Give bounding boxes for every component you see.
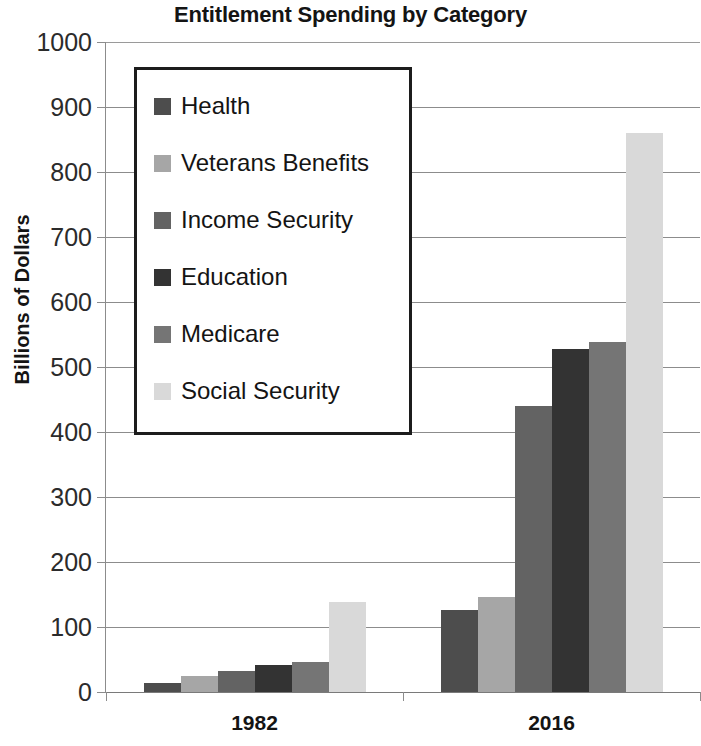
x-axis-label-2016: 2016 — [528, 711, 575, 735]
y-tick-300 — [97, 497, 106, 498]
y-tick-600 — [97, 302, 106, 303]
chart-title: Entitlement Spending by Category — [0, 2, 701, 28]
legend-swatch-icon — [154, 269, 171, 286]
gridline-1000 — [106, 42, 700, 43]
bar-2016-social-security — [626, 133, 663, 692]
legend-item-medicare[interactable]: Medicare — [154, 322, 280, 346]
chart-legend: HealthVeterans BenefitsIncome SecurityEd… — [134, 67, 412, 435]
x-tick-origin — [106, 692, 107, 701]
bar-1982-health — [144, 683, 181, 692]
legend-item-veterans-benefits[interactable]: Veterans Benefits — [154, 151, 369, 175]
y-tick-1000 — [97, 42, 106, 43]
y-tick-400 — [97, 432, 106, 433]
bar-chart: Entitlement Spending by Category Billion… — [0, 0, 701, 746]
legend-swatch-icon — [154, 155, 171, 172]
bar-1982-income-security — [218, 671, 255, 692]
legend-label: Income Security — [181, 208, 353, 232]
bar-2016-health — [441, 610, 478, 692]
bar-1982-education — [255, 665, 292, 692]
legend-swatch-icon — [154, 212, 171, 229]
y-tick-label-600: 600 — [0, 288, 92, 317]
y-tick-label-700: 700 — [0, 223, 92, 252]
x-axis-label-1982: 1982 — [231, 711, 278, 735]
legend-label: Medicare — [181, 322, 280, 346]
legend-item-health[interactable]: Health — [154, 94, 250, 118]
bar-2016-income-security — [515, 406, 552, 692]
y-tick-100 — [97, 627, 106, 628]
x-tick-1982 — [403, 692, 404, 701]
legend-swatch-icon — [154, 383, 171, 400]
y-tick-label-100: 100 — [0, 613, 92, 642]
y-tick-800 — [97, 172, 106, 173]
legend-swatch-icon — [154, 98, 171, 115]
bar-2016-education — [552, 349, 589, 692]
y-tick-label-900: 900 — [0, 93, 92, 122]
y-tick-500 — [97, 367, 106, 368]
y-tick-label-200: 200 — [0, 548, 92, 577]
bar-1982-social-security — [329, 602, 366, 692]
y-tick-200 — [97, 562, 106, 563]
bar-2016-veterans-benefits — [478, 597, 515, 692]
legend-label: Health — [181, 94, 250, 118]
y-tick-label-300: 300 — [0, 483, 92, 512]
legend-item-income-security[interactable]: Income Security — [154, 208, 353, 232]
y-tick-label-1000: 1000 — [0, 28, 92, 57]
legend-swatch-icon — [154, 326, 171, 343]
y-tick-700 — [97, 237, 106, 238]
bar-1982-medicare — [292, 662, 329, 692]
y-tick-900 — [97, 107, 106, 108]
y-tick-label-500: 500 — [0, 353, 92, 382]
legend-item-social-security[interactable]: Social Security — [154, 379, 340, 403]
legend-item-education[interactable]: Education — [154, 265, 288, 289]
bar-2016-medicare — [589, 342, 626, 692]
legend-label: Education — [181, 265, 288, 289]
bar-1982-veterans-benefits — [181, 676, 218, 692]
y-tick-label-400: 400 — [0, 418, 92, 447]
y-tick-label-0: 0 — [0, 678, 92, 707]
legend-label: Social Security — [181, 379, 340, 403]
y-tick-label-800: 800 — [0, 158, 92, 187]
legend-label: Veterans Benefits — [181, 151, 369, 175]
y-tick-0 — [97, 692, 106, 693]
